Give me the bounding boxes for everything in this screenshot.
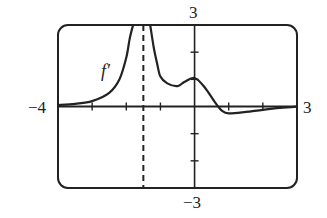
- f-prime-curve: [58, 25, 297, 113]
- x-max-label: 3: [303, 98, 312, 117]
- series-label-f-prime: f′: [101, 61, 111, 81]
- axes: [58, 25, 297, 188]
- y-max-label: 3: [189, 3, 198, 22]
- y-min-label: −3: [183, 193, 201, 212]
- chart: −4 3 3 −3 f′: [0, 0, 327, 218]
- x-min-label: −4: [28, 98, 47, 117]
